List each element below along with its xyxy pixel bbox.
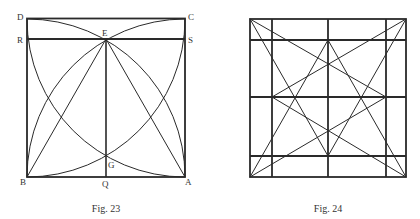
label-d: D [17,12,24,22]
caption-fig-23: Fig. 23 [92,203,120,214]
label-c: C [188,12,194,22]
label-q: Q [102,179,109,189]
label-g: G [108,160,115,170]
diag-bl [250,97,386,177]
figure-24 [250,19,406,177]
label-s: S [188,35,193,45]
line-ea [106,39,185,177]
caption-fig-24: Fig. 24 [314,203,342,214]
figure-23 [27,19,185,178]
label-e: E [102,28,108,38]
label-b: B [20,177,26,187]
diagram-canvas: D C R E S G B Q A Fig. 23 Fig. 24 [0,0,420,219]
label-a: A [185,177,192,187]
label-r: R [17,35,23,45]
line-eb [27,39,106,177]
